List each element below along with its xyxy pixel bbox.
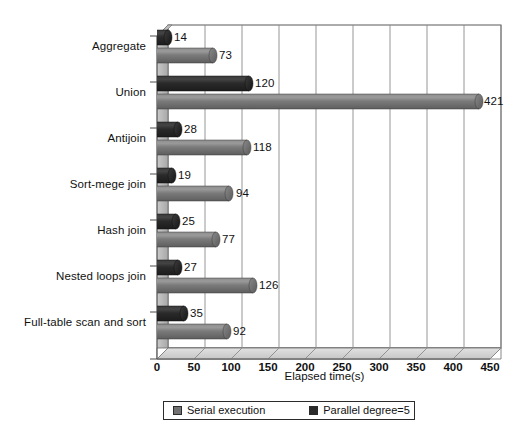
value-label-full-table-scan-and-sort-parallel: 35 <box>190 307 203 319</box>
category-ticks <box>150 36 157 359</box>
bar-aggregate-parallel <box>157 30 172 45</box>
value-label-aggregate-parallel: 14 <box>174 31 187 43</box>
chart-container: Aggregate Union Antijoin Sort-mege join … <box>0 0 529 435</box>
value-label-sort-merge-join-parallel: 19 <box>178 169 191 181</box>
value-label-sort-merge-join-serial: 94 <box>236 187 249 199</box>
category-label-full-table-scan-and-sort: Full-table scan and sort <box>0 316 146 328</box>
bar-hash-join-parallel <box>157 214 180 229</box>
legend-label-serial-execution: Serial execution <box>187 405 265 416</box>
category-label-aggregate: Aggregate <box>0 40 146 52</box>
bar-union-serial <box>157 94 483 109</box>
value-label-antijoin-serial: 118 <box>253 141 272 153</box>
bar-full-table-scan-and-sort-parallel <box>157 306 188 321</box>
category-label-hash-join: Hash join <box>0 224 146 236</box>
category-label-nested-loops-join: Nested loops join <box>0 270 146 282</box>
value-label-nested-loops-join-serial: 126 <box>259 279 279 291</box>
legend-item-serial-execution: Serial execution <box>173 405 265 416</box>
value-label-nested-loops-join-parallel: 27 <box>184 261 197 273</box>
legend-swatch-parallel-icon <box>309 406 318 415</box>
bar-antijoin-parallel <box>157 122 182 137</box>
value-label-union-parallel: 120 <box>255 77 275 89</box>
value-label-full-table-scan-and-sort-serial: 92 <box>233 325 246 337</box>
bar-nested-loops-join-serial <box>157 278 257 293</box>
bar-sort-merge-join-parallel <box>157 168 176 183</box>
category-label-sort-merge-join: Sort-mege join <box>0 178 146 190</box>
legend-label-parallel-degree: Parallel degree=5 <box>323 405 410 416</box>
x-axis-title: Elapsed time(s) <box>285 370 365 382</box>
chart-legend: Serial execution Parallel degree=5 <box>163 401 415 420</box>
bar-aggregate-serial <box>157 48 217 63</box>
bar-union-parallel <box>157 76 253 91</box>
value-label-hash-join-serial: 77 <box>222 233 235 245</box>
legend-item-parallel-degree: Parallel degree=5 <box>309 405 410 416</box>
bar-full-table-scan-and-sort-serial <box>157 324 231 339</box>
x-axis-title-wrap: Elapsed time(s) <box>0 370 529 382</box>
bar-sort-merge-join-serial <box>157 186 233 201</box>
value-label-aggregate-serial: 73 <box>219 49 232 61</box>
value-label-hash-join-parallel: 25 <box>182 215 195 227</box>
bar-antijoin-serial <box>157 140 251 155</box>
category-label-antijoin: Antijoin <box>0 132 146 144</box>
value-label-antijoin-parallel: 28 <box>184 123 197 135</box>
bar-hash-join-serial <box>157 232 220 247</box>
legend-swatch-serial-icon <box>173 406 182 415</box>
bar-nested-loops-join-parallel <box>157 260 182 275</box>
value-label-union-serial: 421 <box>484 95 504 107</box>
category-label-union: Union <box>0 86 146 98</box>
